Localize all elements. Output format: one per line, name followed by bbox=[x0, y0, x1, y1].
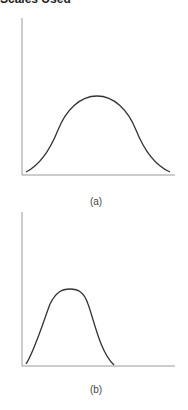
bell-curve-wide bbox=[26, 96, 170, 172]
figure-a-caption: (a) bbox=[90, 196, 102, 207]
bell-curve-narrow bbox=[26, 289, 114, 365]
figure-b-caption: (b) bbox=[90, 384, 102, 395]
figure-a bbox=[22, 18, 175, 175]
figure-b bbox=[22, 212, 175, 366]
